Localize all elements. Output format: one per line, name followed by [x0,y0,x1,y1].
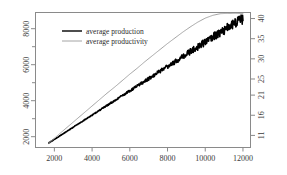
y2-tick-label: 25 [257,75,266,83]
chart-plot: 20004000600080001000012000 2000400060008… [0,0,287,175]
y-tick-label: 8000 [22,21,31,37]
x-tick-label: 8000 [160,154,176,163]
x-tick-label: 2000 [46,154,62,163]
y2-tick-label: 35 [257,35,266,43]
y2-tick-label: 11 [257,132,266,140]
legend-label-2: average productivity [86,37,148,46]
y-tick-label: 2000 [22,129,31,145]
y-tick-label: 4000 [22,93,31,109]
x-tick-label: 6000 [122,154,138,163]
legend-label-1: average production [86,27,144,36]
chart-container: 20004000600080001000012000 2000400060008… [0,0,287,175]
y2-tick-label: 30 [257,55,266,63]
y-tick-label: 6000 [22,57,31,73]
y2-tick-label: 21 [257,91,266,99]
x-tick-label: 12000 [233,154,253,163]
y2-tick-label: 16 [257,111,266,119]
x-tick-label: 10000 [195,154,215,163]
y2-tick-label: 40 [257,15,266,23]
x-tick-label: 4000 [84,154,100,163]
